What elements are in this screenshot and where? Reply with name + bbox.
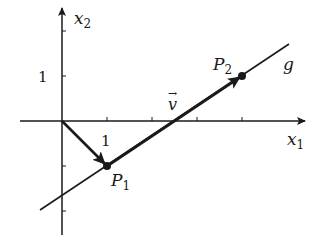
point-p2	[238, 72, 246, 80]
y-tick-label-1: 1	[38, 68, 48, 86]
x-axis-label: x1	[287, 129, 304, 152]
y-axis-label: x2	[74, 8, 91, 31]
point-p1	[103, 162, 111, 170]
vector-arrow-icon: →	[168, 87, 177, 100]
vector-diagram: x2 x1 1 1 P1 P2 g v →	[0, 0, 326, 246]
position-vector-p1	[62, 121, 105, 164]
p2-label: P2	[212, 54, 232, 77]
p1-label: P1	[110, 170, 130, 193]
x-tick-label-1: 1	[101, 132, 111, 150]
line-g-label: g	[283, 54, 294, 74]
